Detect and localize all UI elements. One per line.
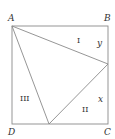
vertex-label-a: A: [7, 13, 15, 23]
square-abcd: [12, 26, 108, 124]
vertex-label-d: D: [7, 127, 15, 137]
segment-label-x: x: [98, 94, 103, 104]
vertex-label-c: C: [104, 127, 111, 137]
vertex-label-b: B: [103, 13, 111, 23]
segment-a-to-dc-point: [12, 26, 49, 124]
segment-label-y: y: [96, 38, 103, 48]
segment-a-to-bc-point: [12, 26, 108, 64]
region-label-iii: III: [20, 94, 29, 103]
region-label-ii: II: [82, 105, 88, 114]
region-label-i: I: [77, 36, 80, 45]
square-diagram: A B C D I II III y x: [0, 0, 115, 139]
